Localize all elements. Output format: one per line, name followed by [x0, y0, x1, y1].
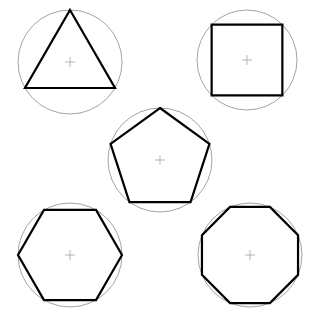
- inscribed-polygons-figure: [0, 0, 310, 321]
- figure-group-square: [197, 10, 297, 110]
